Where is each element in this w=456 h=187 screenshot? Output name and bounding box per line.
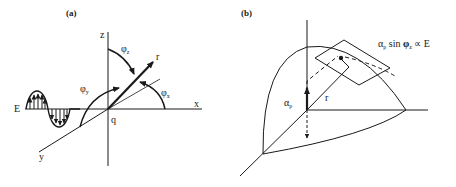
y-axis-label: y (39, 151, 44, 162)
r-vector-perp (342, 60, 349, 67)
induced-dipole-point (339, 56, 343, 60)
ellipsoid-upper-arc (307, 46, 406, 110)
formula-label: αp sin φz ∝ E (378, 38, 430, 50)
origin-q-label: q (111, 114, 116, 125)
panel-a: (a) z x y q r φz φy φx E (14, 8, 202, 166)
alpha-p-label: αp (284, 97, 292, 109)
r-vector-arrow (108, 62, 153, 109)
panel-b-label: (b) (241, 8, 252, 18)
e-field-label: E (14, 103, 20, 114)
figure: (a) z x y q r φz φy φx E (0, 0, 456, 187)
phi-z-label: φz (121, 43, 130, 55)
r-vector-label: r (156, 51, 160, 62)
projection-line (108, 79, 160, 109)
r-vector-line (307, 67, 349, 110)
panel-a-label: (a) (66, 8, 77, 18)
phi-y-label: φy (80, 83, 89, 95)
phi-x-label: φx (161, 87, 170, 99)
r-vector-label: r (325, 92, 329, 103)
z-axis-label: z (100, 29, 105, 40)
x-axis-label: x (194, 98, 199, 109)
panel-b: (b) r αp αp sin φz ∝ E (240, 8, 430, 176)
diagonal-axis (240, 110, 307, 176)
